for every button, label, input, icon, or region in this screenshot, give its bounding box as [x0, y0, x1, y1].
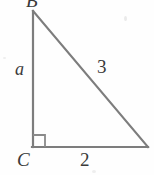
- right-angle-marker: [33, 135, 45, 147]
- vertex-label-b: B: [26, 0, 38, 10]
- edge-hypotenuse-3: [33, 11, 148, 147]
- triangle-figure: B C a 3 2: [0, 0, 154, 175]
- side-label-hypotenuse: 3: [97, 57, 107, 76]
- vertex-label-c: C: [17, 150, 30, 169]
- side-label-base: 2: [80, 150, 90, 169]
- side-label-a: a: [15, 60, 24, 78]
- triangle-edges: [32, 11, 148, 147]
